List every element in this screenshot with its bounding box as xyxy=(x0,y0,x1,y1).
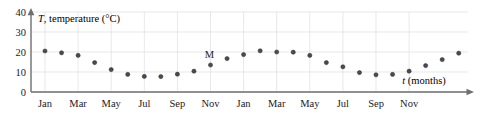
x-tick-label: Sep xyxy=(368,98,384,109)
scatter-plot-svg: 010203040 JanMarMayJulSepNovJanMarMayJul… xyxy=(0,0,483,120)
data-point xyxy=(390,72,394,76)
y-tick-label: 10 xyxy=(16,67,27,78)
data-point xyxy=(59,51,63,55)
data-point xyxy=(175,72,179,76)
data-point xyxy=(357,71,361,75)
x-tick-label: Nov xyxy=(201,98,220,109)
x-tick-label: Mar xyxy=(69,98,87,109)
data-point xyxy=(258,49,262,53)
x-tick-label: Jul xyxy=(337,98,349,109)
y-tick-labels-group: 010203040 xyxy=(16,7,27,98)
data-point xyxy=(341,65,345,69)
x-axis-title-rest: (months) xyxy=(405,75,446,87)
x-tick-label: May xyxy=(300,98,320,109)
y-axis-title: T, temperature (°C) xyxy=(38,13,121,25)
data-point xyxy=(225,57,229,61)
data-point xyxy=(440,58,444,62)
data-point xyxy=(142,74,146,78)
data-point xyxy=(159,75,163,79)
data-point xyxy=(76,53,80,57)
data-point xyxy=(424,64,428,68)
point-labels-group: M xyxy=(205,49,215,60)
x-tick-label: Jul xyxy=(138,98,150,109)
y-axis-arrowhead xyxy=(28,8,35,15)
data-point xyxy=(308,53,312,57)
data-point xyxy=(208,63,212,67)
data-point-label-m: M xyxy=(205,49,215,60)
data-point xyxy=(93,61,97,65)
data-point xyxy=(242,53,246,57)
x-tick-label: Nov xyxy=(400,98,419,109)
y-tick-label: 20 xyxy=(16,47,27,58)
x-tick-labels-group: JanMarMayJulSepNovJanMarMayJulSepNov xyxy=(38,98,419,109)
x-axis-title: t (months) xyxy=(402,75,446,87)
y-tick-label: 0 xyxy=(21,87,26,98)
x-tick-label: Jan xyxy=(38,98,53,109)
data-point xyxy=(324,61,328,65)
data-point xyxy=(374,73,378,77)
data-point xyxy=(109,68,113,72)
data-point xyxy=(192,69,196,73)
data-point xyxy=(43,49,47,53)
x-tick-label: Mar xyxy=(268,98,286,109)
data-point xyxy=(407,69,411,73)
x-tick-label: May xyxy=(102,98,122,109)
y-tick-label: 30 xyxy=(16,27,27,38)
data-point xyxy=(126,72,130,76)
data-point xyxy=(291,50,295,54)
x-tick-label: Jan xyxy=(237,98,252,109)
data-point xyxy=(275,50,279,54)
chart-figure: 010203040 JanMarMayJulSepNovJanMarMayJul… xyxy=(0,0,483,120)
data-point xyxy=(457,51,461,55)
y-axis-title-rest: , temperature (°C) xyxy=(44,13,121,25)
x-tick-label: Sep xyxy=(170,98,186,109)
data-points-group xyxy=(43,49,461,79)
x-axis-arrowhead xyxy=(467,89,475,96)
y-tick-label: 40 xyxy=(16,7,27,18)
